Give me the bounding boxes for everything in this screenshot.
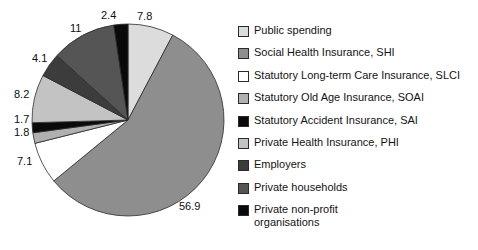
legend-item-label: Private non-profitorganisations bbox=[254, 203, 338, 228]
legend-item-label: Social Health Insurance, SHI bbox=[254, 46, 395, 59]
pie-chart-plot-area: 7.82.4114.18.21.71.87.156.9 bbox=[0, 0, 240, 250]
legend-swatch-icon bbox=[238, 138, 249, 149]
legend-item[interactable]: Employers bbox=[238, 158, 478, 180]
legend-item[interactable]: Private non-profitorganisations bbox=[238, 203, 478, 237]
pie-slice-value-label: 7.1 bbox=[17, 155, 32, 167]
legend-item[interactable]: Statutory Accident Insurance, SAI bbox=[238, 114, 478, 136]
legend-item-label: Private households bbox=[254, 181, 348, 194]
pie-svg bbox=[0, 0, 240, 250]
legend-swatch-icon bbox=[238, 116, 249, 127]
legend-item[interactable]: Public spending bbox=[238, 24, 478, 46]
legend-item-label: Statutory Old Age Insurance, SOAI bbox=[254, 91, 424, 104]
legend-swatch-icon bbox=[238, 205, 249, 216]
pie-slice-value-label: 1.8 bbox=[14, 126, 29, 138]
legend-item-label: Statutory Long-term Care Insurance, SLCI bbox=[254, 69, 460, 82]
legend-swatch-icon bbox=[238, 48, 249, 59]
legend-swatch-icon bbox=[238, 71, 249, 82]
pie-slice-value-label: 8.2 bbox=[14, 88, 29, 100]
legend-swatch-icon bbox=[238, 160, 249, 171]
legend-item-label: Statutory Accident Insurance, SAI bbox=[254, 114, 418, 127]
legend-swatch-icon bbox=[238, 183, 249, 194]
legend-item[interactable]: Social Health Insurance, SHI bbox=[238, 46, 478, 68]
pie-slice-value-label: 1.7 bbox=[14, 113, 29, 125]
legend-item[interactable]: Private Health Insurance, PHI bbox=[238, 136, 478, 158]
pie-slice-value-label: 2.4 bbox=[101, 9, 116, 21]
legend-item-label: Public spending bbox=[254, 24, 332, 37]
legend-item[interactable]: Statutory Old Age Insurance, SOAI bbox=[238, 91, 478, 113]
legend-item[interactable]: Private households bbox=[238, 181, 478, 203]
pie-slice-value-label: 56.9 bbox=[179, 200, 200, 212]
legend-item-label-line2: organisations bbox=[254, 216, 338, 229]
legend-swatch-icon bbox=[238, 93, 249, 104]
legend-item-label: Private Health Insurance, PHI bbox=[254, 136, 399, 149]
legend-item[interactable]: Statutory Long-term Care Insurance, SLCI bbox=[238, 69, 478, 91]
pie-slice-value-label: 11 bbox=[70, 22, 81, 34]
legend-swatch-icon bbox=[238, 26, 249, 37]
pie-slice-value-label: 4.1 bbox=[32, 52, 47, 64]
chart-legend: Public spendingSocial Health Insurance, … bbox=[238, 24, 478, 237]
pie-chart-figure: 7.82.4114.18.21.71.87.156.9 Public spend… bbox=[0, 0, 478, 250]
pie-slice-value-label: 7.8 bbox=[137, 10, 152, 22]
legend-item-label: Employers bbox=[254, 158, 306, 171]
